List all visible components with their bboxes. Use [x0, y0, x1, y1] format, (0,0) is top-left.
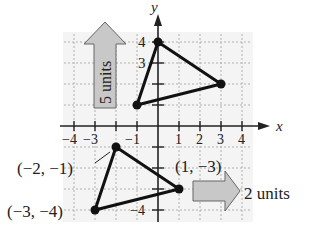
y-axis-arrow-icon [154, 14, 162, 26]
vertex-point [154, 38, 163, 47]
vertex-label: (1, −3) [175, 157, 221, 176]
x-axis-arrow-icon [258, 122, 270, 130]
vertex-point [91, 206, 100, 215]
x-tick-label: −3 [83, 132, 98, 147]
translation-diagram: x y −4 −3 −1 1 2 3 4 4 3 −4 5 units 2 un… [0, 0, 315, 225]
vertex-label: (−2, −1) [17, 159, 73, 178]
arrow-up-label: 5 units [97, 61, 114, 104]
vertex-label: (−3, −4) [7, 202, 63, 221]
vertex-point [217, 80, 226, 89]
x-tick-label: −4 [62, 132, 77, 147]
vertex-point [112, 143, 121, 152]
x-tick-label: 3 [217, 132, 224, 147]
y-tick-label: 3 [138, 55, 146, 71]
vertex-point [133, 101, 142, 110]
x-tick-label: 4 [238, 132, 245, 147]
y-tick-label: 4 [138, 34, 146, 50]
x-tick-label: 1 [175, 132, 182, 147]
x-tick-label: 2 [196, 132, 203, 147]
y-tick-label: −4 [130, 203, 145, 218]
arrow-right-label: 2 units [244, 184, 290, 203]
y-axis-label: y [149, 0, 158, 15]
x-axis-label: x [275, 118, 283, 134]
x-tick-label: −1 [125, 132, 140, 147]
vertex-point [175, 185, 184, 194]
